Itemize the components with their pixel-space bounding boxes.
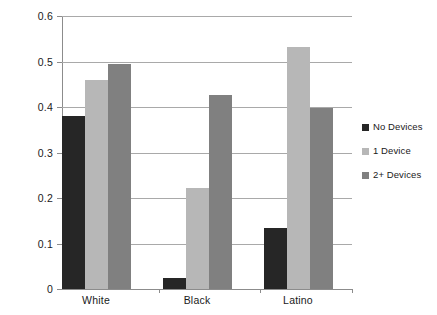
- x-tick-mark: [260, 289, 261, 293]
- legend: No Devices 1 Device 2+ Devices: [362, 122, 437, 194]
- bar-black-2plus-devices: [209, 95, 232, 289]
- y-tick-label: 0.3: [7, 148, 53, 159]
- bar-latino-2plus-devices: [310, 108, 333, 289]
- legend-swatch-icon: [362, 172, 369, 179]
- y-tick-label: 0.2: [7, 193, 53, 204]
- x-tick-mark: [352, 289, 353, 293]
- y-axis-labels: 0.6 0.5 0.4 0.3 0.2 0.1 0: [0, 0, 53, 315]
- bar-black-1-device: [186, 188, 209, 289]
- bar-chart: 0.6 0.5 0.4 0.3 0.2 0.1 0: [0, 0, 437, 315]
- x-tick-mark: [159, 289, 160, 293]
- x-axis: [62, 289, 353, 290]
- x-tick-label-white: White: [51, 294, 141, 306]
- legend-label: 1 Device: [373, 146, 411, 156]
- bar-white-1-device: [85, 80, 108, 289]
- bar-latino-no-devices: [264, 228, 287, 289]
- y-tick-label: 0.6: [7, 11, 53, 22]
- bar-latino-1-device: [287, 47, 310, 289]
- bar-white-no-devices: [62, 116, 85, 289]
- legend-label: No Devices: [373, 122, 423, 132]
- plot-area: [62, 16, 352, 289]
- bar-white-2plus-devices: [108, 64, 131, 289]
- legend-label: 2+ Devices: [373, 170, 421, 180]
- y-tick-label: 0.4: [7, 102, 53, 113]
- x-tick-label-black: Black: [152, 294, 242, 306]
- y-tick-label: 0.5: [7, 57, 53, 68]
- y-tick-label: 0.1: [7, 239, 53, 250]
- legend-swatch-icon: [362, 148, 369, 155]
- bar-group-latino: [264, 16, 333, 289]
- y-tick-label: 0: [7, 284, 53, 295]
- legend-swatch-icon: [362, 124, 369, 131]
- bar-black-no-devices: [163, 278, 186, 289]
- bar-group-black: [163, 16, 232, 289]
- legend-item-1-device: 1 Device: [362, 146, 437, 156]
- legend-item-2plus-devices: 2+ Devices: [362, 170, 437, 180]
- bar-group-white: [62, 16, 131, 289]
- legend-item-no-devices: No Devices: [362, 122, 437, 132]
- x-tick-label-latino: Latino: [253, 294, 343, 306]
